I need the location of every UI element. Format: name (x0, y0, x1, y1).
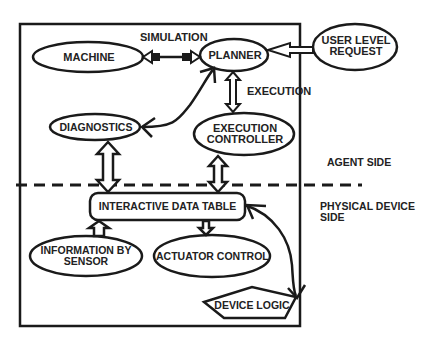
sensor-table-arrow (89, 221, 109, 236)
user-request-label-line2: REQUEST (318, 46, 394, 57)
physical-side-label-line2: SIDE (320, 212, 345, 223)
data-table-label: INTERACTIVE DATA TABLE (92, 201, 243, 212)
controller-table-arrow (209, 156, 227, 192)
device-logic-label: DEVICE LOGIC (212, 300, 292, 311)
diagnostics-label: DIAGNOSTICS (58, 122, 134, 133)
simulation-label: SIMULATION (140, 32, 206, 43)
simulation-arrow (143, 51, 200, 63)
execution-edge-label: EXECUTION (247, 86, 311, 97)
execution-arrow (226, 72, 240, 112)
user-request-arrow (268, 43, 313, 57)
machine-label: MACHINE (53, 52, 125, 63)
planner-label: PLANNER (202, 50, 268, 61)
diagnostics-table-arrow (97, 142, 119, 192)
actuator-label: ACTUATOR CONTROL (156, 251, 268, 262)
table-actuator-arrow (199, 221, 213, 235)
exec-controller-label-line2: CONTROLLER (200, 134, 290, 145)
sensor-label-line2: SENSOR (36, 256, 136, 267)
agent-side-label: AGENT SIDE (327, 157, 391, 168)
